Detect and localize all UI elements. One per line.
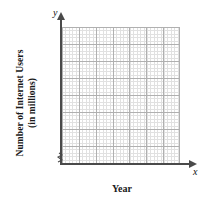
axis-break-zigzag-icon [56,152,65,163]
y-axis-caption: Number of Internet Users (in millions) [0,0,52,206]
grid-right-edge [179,27,180,163]
y-axis-line [60,18,62,165]
x-axis-line [60,163,190,165]
y-axis-arrowhead-icon [57,12,65,20]
x-axis-caption: Year [62,183,182,194]
major-gridlines [62,27,180,163]
grid-top-edge [62,27,180,28]
graph-figure: Number of Internet Users (in millions) y… [0,0,207,206]
y-axis-variable-label: y [53,7,57,18]
y-axis-caption-text: Number of Internet Users (in millions) [14,50,38,157]
plot-area [62,27,180,163]
y-axis-caption-line-1: Number of Internet Users [14,50,26,157]
y-axis-caption-line-2: (in millions) [26,50,38,157]
x-axis-variable-label: x [193,166,197,177]
